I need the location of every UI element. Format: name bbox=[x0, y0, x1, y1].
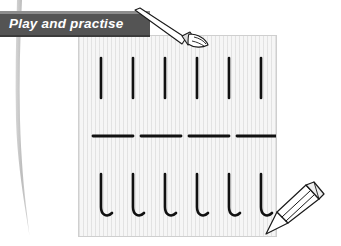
stroke-cursive-l-hook bbox=[101, 174, 272, 215]
stroke-vertical-line bbox=[101, 58, 261, 98]
worksheet-page: Play and practise bbox=[0, 0, 341, 246]
practice-paper bbox=[78, 35, 277, 237]
page-title: Play and practise bbox=[9, 17, 123, 31]
practice-strokes bbox=[79, 36, 276, 236]
page-title-banner: Play and practise bbox=[0, 11, 150, 37]
